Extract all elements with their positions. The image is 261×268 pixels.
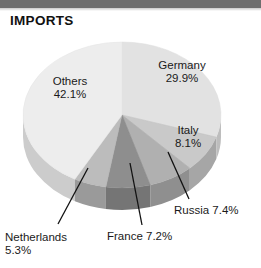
pie-chart-svg xyxy=(0,0,261,268)
slice-label-netherlands-value: 5.3% xyxy=(5,244,67,257)
slice-label-others: Others 42.1% xyxy=(36,75,104,101)
slice-label-italy: Italy 8.1% xyxy=(163,124,213,150)
slice-label-france: France 7.2% xyxy=(107,230,172,243)
slice-label-others-value: 42.1% xyxy=(36,88,104,101)
slice-label-russia: Russia 7.4% xyxy=(174,204,239,217)
slice-label-italy-value: 8.1% xyxy=(163,137,213,150)
slice-label-netherlands: Netherlands 5.3% xyxy=(5,231,67,257)
slice-label-others-name: Others xyxy=(53,75,88,87)
slice-label-germany: Germany 29.9% xyxy=(145,59,219,85)
slice-label-germany-value: 29.9% xyxy=(145,72,219,85)
slice-label-italy-name: Italy xyxy=(177,124,198,136)
slice-label-netherlands-name: Netherlands xyxy=(5,231,67,243)
pie-chart xyxy=(0,0,261,268)
pie-side-france xyxy=(106,185,150,210)
chart-page: IMPORTS xyxy=(0,0,261,268)
slice-label-germany-name: Germany xyxy=(158,59,205,71)
